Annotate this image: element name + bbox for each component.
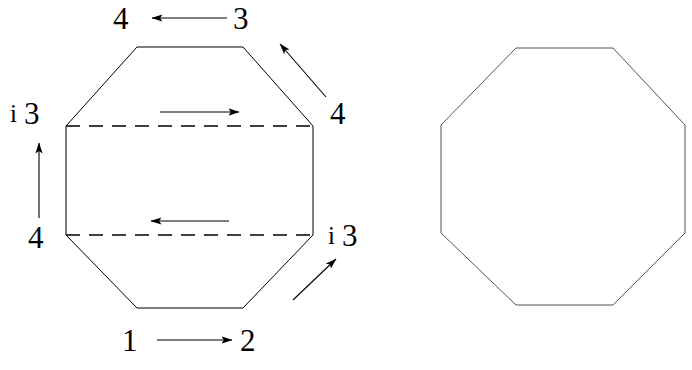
label-top-left-4: 4	[113, 3, 129, 34]
label-upper-left-pair: i3	[10, 98, 39, 129]
label-lower-right-index: i	[328, 222, 335, 249]
figure-root: 4 3 i3 4 4 i3 1 2	[0, 0, 692, 370]
label-upper-left-number: 3	[24, 96, 40, 131]
label-bottom-right-2: 2	[240, 325, 256, 356]
label-bottom-left-1: 1	[122, 325, 138, 356]
upper-right-diagonal-arrow	[280, 44, 326, 97]
lower-right-diagonal-arrow	[293, 259, 336, 300]
label-lower-right-number: 3	[342, 218, 358, 253]
label-upper-right-4: 4	[330, 98, 346, 129]
label-upper-left-index: i	[10, 100, 17, 127]
figure-canvas	[0, 0, 692, 370]
label-lower-right-pair: i3	[328, 220, 357, 251]
label-top-right-3: 3	[233, 3, 249, 34]
right-octagon-outline	[441, 48, 685, 305]
left-octagon-outline	[66, 47, 313, 308]
label-lower-left-4: 4	[28, 222, 44, 253]
